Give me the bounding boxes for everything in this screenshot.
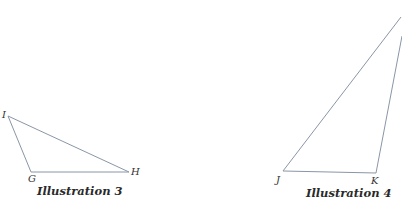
caption-illustration-4: Illustration 4 [305,186,392,200]
triangle-ghi: I G H Illustration 3 [1,109,140,198]
edge-k-top [376,36,402,173]
edge-ih [8,116,129,172]
vertex-label-i: I [1,109,7,120]
vertex-label-g: G [28,173,36,184]
caption-illustration-3: Illustration 3 [36,184,123,198]
triangle-jk: J K Illustration 4 [274,17,402,200]
edge-ig [8,116,31,172]
vertex-label-h: H [130,166,140,177]
vertex-label-j: J [274,174,281,185]
edge-jk [283,171,376,173]
vertex-label-k: K [370,175,379,186]
diagram-canvas: I G H Illustration 3 J K Illustration 4 [0,0,402,217]
edge-j-top [283,17,401,171]
